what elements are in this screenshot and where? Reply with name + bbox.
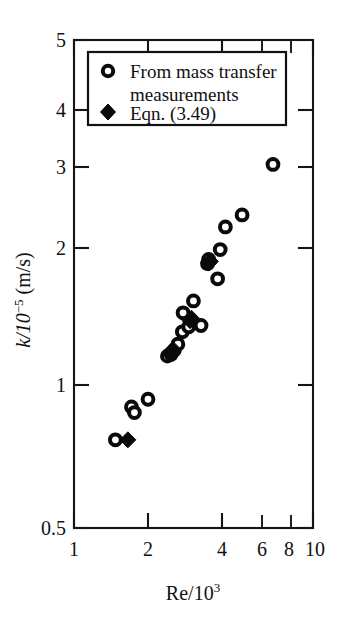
svg-text:k/10−5 (m/s): k/10−5 (m/s) (11, 252, 35, 348)
data-points-layer (110, 159, 278, 448)
svg-text:Re/103: Re/103 (166, 580, 220, 604)
y-tick-labels: 0.5 1 2 3 4 5 (41, 29, 66, 539)
y-axis-ticks-left (74, 40, 89, 528)
scatter-plot-svg: 1 2 4 6 8 10 0.5 1 2 3 (0, 0, 340, 634)
y-tick-label-2: 2 (56, 237, 66, 259)
y-axis-title-units: (m/s) (12, 252, 35, 299)
x-tick-label-3: 4 (217, 538, 227, 560)
x-axis-title-exponent: 3 (214, 580, 221, 595)
y-axis-title-exponent: −5 (11, 299, 26, 313)
legend: From mass transfer measurements Eqn. (3.… (88, 52, 286, 125)
y-axis-title-base: k/10 (12, 313, 34, 347)
data-point-circle (220, 222, 231, 233)
data-point-circle (129, 407, 140, 418)
y-axis-title: k/10−5 (m/s) (11, 252, 35, 348)
x-tick-label-6: 10 (305, 538, 325, 560)
legend-label-series1-line2: measurements (130, 84, 239, 105)
data-point-circle (212, 273, 223, 284)
chart-figure: 1 2 4 6 8 10 0.5 1 2 3 (0, 0, 340, 634)
x-tick-labels: 1 2 4 6 8 10 (69, 538, 325, 560)
y-tick-label-5: 5 (56, 29, 66, 51)
y-tick-label-0-5: 0.5 (41, 517, 66, 539)
y-tick-label-3: 3 (56, 156, 66, 178)
y-tick-label-4: 4 (56, 99, 66, 121)
legend-label-series2-line1: Eqn. (3.49) (130, 103, 216, 125)
data-point-circle (143, 394, 154, 405)
x-tick-label-5: 8 (284, 538, 294, 560)
x-axis-title-base: Re/10 (166, 582, 214, 604)
data-point-diamond (120, 432, 136, 448)
data-point-circle (215, 244, 226, 255)
data-point-circle (237, 210, 248, 221)
legend-open-circle-icon (103, 66, 113, 76)
x-axis-title: Re/103 (166, 580, 220, 604)
x-tick-label-4: 6 (257, 538, 267, 560)
data-point-circle (188, 295, 199, 306)
legend-label-series1-line1: From mass transfer (130, 61, 277, 82)
x-tick-label-1: 1 (69, 538, 79, 560)
data-point-circle (268, 159, 279, 170)
x-axis-ticks-bottom (74, 513, 313, 528)
y-axis-ticks-right (298, 110, 313, 528)
y-tick-label-1: 1 (56, 374, 66, 396)
x-tick-label-2: 2 (143, 538, 153, 560)
